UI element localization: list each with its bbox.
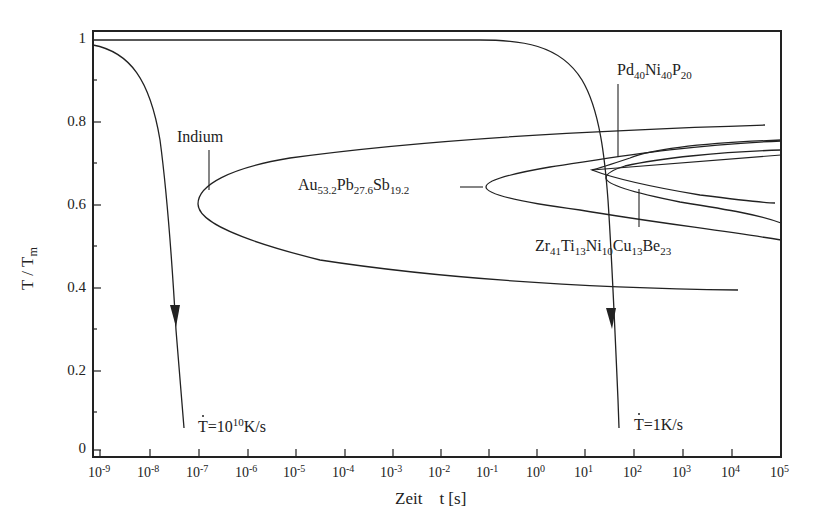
ttt-curve-zr: [606, 150, 781, 223]
label-au: Au53.2Pb27.6Sb19.2: [298, 177, 409, 196]
x-tick: 10-7: [186, 464, 208, 480]
y-tick-0.8: 0.8: [46, 114, 86, 129]
y-tick-1: 1: [46, 31, 86, 46]
y-tick-0: 0: [46, 441, 86, 456]
label-rate-slow: T=1K/s: [634, 417, 683, 433]
y-tick-0.2: 0.2: [46, 363, 86, 378]
x-tick: 100: [526, 464, 545, 480]
x-tick: 105: [770, 464, 789, 480]
x-tick: 10-5: [283, 464, 305, 480]
y-ticks: [93, 80, 101, 450]
x-tick: 103: [672, 464, 691, 480]
cooling-curve-1Ks: [93, 40, 619, 428]
label-pd: Pd40Ni40P20: [617, 62, 692, 81]
y-axis-label: T / Tm: [18, 247, 41, 290]
x-tick: 102: [623, 464, 642, 480]
ttt-curve-au: [486, 141, 781, 240]
x-tick: 10-8: [137, 464, 159, 480]
x-tick: 10-6: [235, 464, 257, 480]
x-tick: 104: [721, 464, 740, 480]
y-tick-0.4: 0.4: [46, 280, 86, 295]
x-tick: 10-1: [476, 464, 498, 480]
x-tick: 10-9: [88, 464, 110, 480]
chart-canvas: [0, 0, 817, 532]
ttt-curve-pd: [592, 140, 781, 203]
cooling-curve-fast: [93, 45, 184, 428]
x-tick: 101: [574, 464, 593, 480]
x-tick: 10-4: [332, 464, 354, 480]
y-tick-0.6: 0.6: [46, 197, 86, 212]
ttt-curve-indium: [198, 125, 765, 290]
x-axis-label: Zeit t [s]: [395, 490, 466, 507]
label-indium: Indium: [177, 129, 223, 145]
label-rate-fast: T=1010K/s: [198, 417, 266, 435]
label-zr: Zr41Ti13Ni10Cu13Be23: [535, 238, 671, 257]
x-tick: 10-2: [428, 464, 450, 480]
x-ticks: [100, 449, 732, 457]
x-tick: 10-3: [380, 464, 402, 480]
plot-frame: [93, 31, 781, 457]
